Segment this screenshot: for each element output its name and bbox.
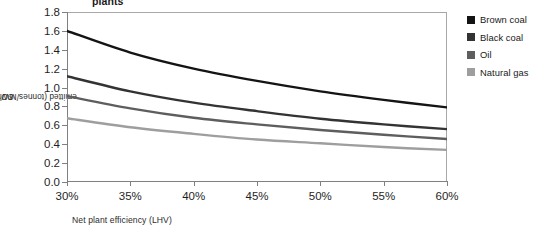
y-axis-title-text: CO2 emitted (tonnes/MWh net generation) — [2, 95, 11, 98]
x-axis-tick-label: 55% — [372, 190, 395, 202]
y-axis-tick-label: 0.2 — [44, 157, 60, 169]
y-axis-tick-label: 0.0 — [44, 176, 60, 188]
series-curves — [67, 12, 447, 182]
x-axis-tick — [447, 181, 448, 186]
y-axis-tick-label: 1.2 — [44, 63, 60, 75]
legend-item[interactable]: Brown coal — [467, 11, 545, 29]
y-axis-tick-label: 0.8 — [44, 100, 60, 112]
y-axis-title: CO2 emitted (tonnes/MWh net generation) — [0, 12, 13, 182]
series-line — [67, 96, 447, 139]
series-line — [67, 31, 447, 108]
series-line — [67, 76, 447, 129]
legend: Brown coalBlack coalOilNatural gas — [467, 11, 545, 81]
legend-item-label: Oil — [480, 49, 492, 60]
y-axis-tick-label: 0.6 — [44, 119, 60, 131]
legend-swatch-icon — [467, 51, 475, 59]
legend-item-label: Black coal — [480, 32, 523, 43]
x-axis-tick-label: 45% — [245, 190, 268, 202]
legend-item[interactable]: Black coal — [467, 29, 545, 47]
legend-item[interactable]: Natural gas — [467, 64, 545, 82]
y-axis-tick-label: 0.4 — [44, 138, 60, 150]
plot-area: 0.00.20.40.60.81.01.21.41.61.8 30%35%40%… — [67, 12, 447, 182]
x-axis-title: Net plant efficiency (LHV) — [72, 215, 172, 225]
chart-page: plants CO2 emitted (tonnes/MWh net gener… — [0, 0, 545, 237]
page-title: plants — [92, 0, 124, 7]
y-axis-tick-label: 1.0 — [44, 82, 60, 94]
y-axis-tick-label: 1.6 — [44, 25, 60, 37]
legend-swatch-icon — [467, 16, 475, 24]
legend-swatch-icon — [467, 68, 475, 76]
y-axis-title-suffix: emitted (tonnes/MWh net generation) — [0, 93, 76, 102]
legend-item-label: Natural gas — [480, 67, 529, 78]
x-axis-tick-label: 60% — [435, 190, 458, 202]
legend-item[interactable]: Oil — [467, 46, 545, 64]
y-axis-tick-label: 1.4 — [44, 44, 60, 56]
y-axis-tick-label: 1.8 — [44, 6, 60, 18]
legend-item-label: Brown coal — [480, 14, 527, 25]
legend-swatch-icon — [467, 33, 475, 41]
x-axis-tick-label: 50% — [309, 190, 332, 202]
x-axis-tick-label: 30% — [55, 190, 78, 202]
x-axis-tick-label: 35% — [119, 190, 142, 202]
x-axis-tick-label: 40% — [182, 190, 205, 202]
